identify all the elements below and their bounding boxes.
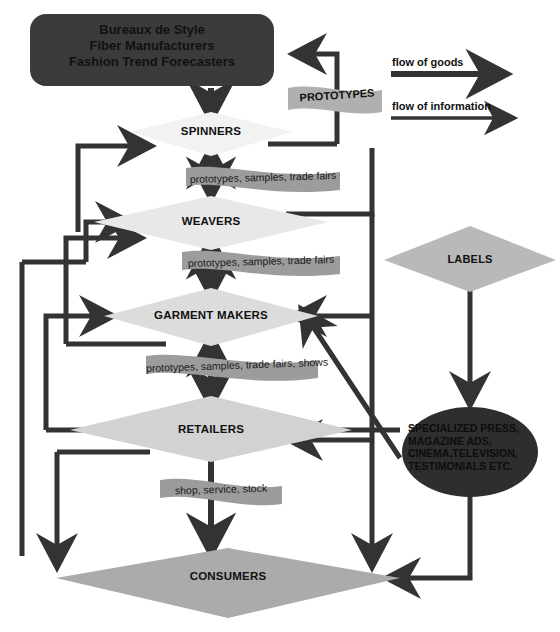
legend-flow-of-information-label: flow of information — [392, 100, 491, 112]
node-weavers[interactable] — [94, 196, 328, 250]
feedback-into-garment-makers — [46, 316, 112, 430]
node-consumers[interactable] — [56, 548, 400, 618]
node-labels[interactable] — [384, 226, 556, 292]
node-specialized-press[interactable] — [402, 407, 538, 497]
banner-prototypes-samples-trade-fairs-shows — [146, 355, 318, 381]
banner-shop-service-stock — [160, 479, 282, 505]
node-garment-makers[interactable] — [104, 288, 318, 346]
fashion-supply-chain-diagram — [0, 0, 560, 632]
diagram-canvas: Bureaux de Style Fiber Manufacturers Fas… — [0, 0, 560, 632]
legend-flow-of-goods-label: flow of goods — [392, 56, 463, 68]
banner-prototypes-samples-trade-fairs-2 — [182, 251, 340, 276]
node-spinners[interactable] — [130, 112, 292, 156]
banner-prototypes — [288, 86, 382, 113]
right-spine-group — [286, 148, 372, 566]
feedback-loop-group — [22, 146, 166, 566]
node-bureaux-de-style[interactable] — [30, 14, 274, 86]
feedback-garment-to-weavers — [66, 238, 140, 344]
